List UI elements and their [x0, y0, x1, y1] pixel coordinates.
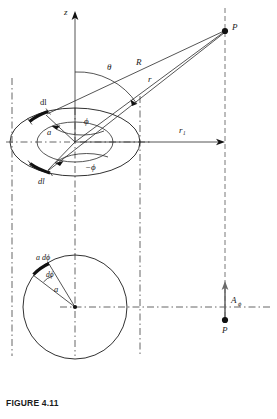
R-label: R [135, 57, 142, 67]
radius-a-line-bottom [48, 142, 75, 170]
figure-container: z dl dl a ϕ −ϕ R r [0, 0, 277, 419]
R-ray-line [75, 32, 224, 142]
z-axis-label: z [63, 7, 68, 17]
r1-label: r₁ [179, 125, 186, 135]
point-p-bottom-label: P [221, 325, 228, 335]
radius-a-label-bottom: a [54, 284, 58, 294]
dphi-label: dϕ [46, 270, 54, 279]
theta-label: θ [107, 62, 112, 72]
a-dphi-label: a dϕ [36, 253, 50, 262]
r-label: r [148, 74, 152, 84]
minus-phi-label: −ϕ [85, 162, 96, 172]
dl-upper-label: dl [40, 97, 47, 107]
A-phi-subscript: ϕ [238, 300, 242, 307]
figure-caption: FIGURE 4.11 [6, 398, 59, 408]
A-phi-label: A [230, 295, 237, 305]
physics-diagram: z dl dl a ϕ −ϕ R r [0, 0, 277, 419]
plan-view-circle-center-marker [73, 305, 77, 309]
point-p-top-label: P [231, 22, 238, 32]
radius-a-label-top: a [47, 127, 51, 137]
dl-lower-label: dl [38, 176, 45, 186]
point-p-bottom-marker [222, 317, 228, 323]
phi-label: ϕ [84, 116, 89, 126]
point-p-top-marker [222, 28, 228, 34]
theta-angle-arc [75, 72, 137, 104]
